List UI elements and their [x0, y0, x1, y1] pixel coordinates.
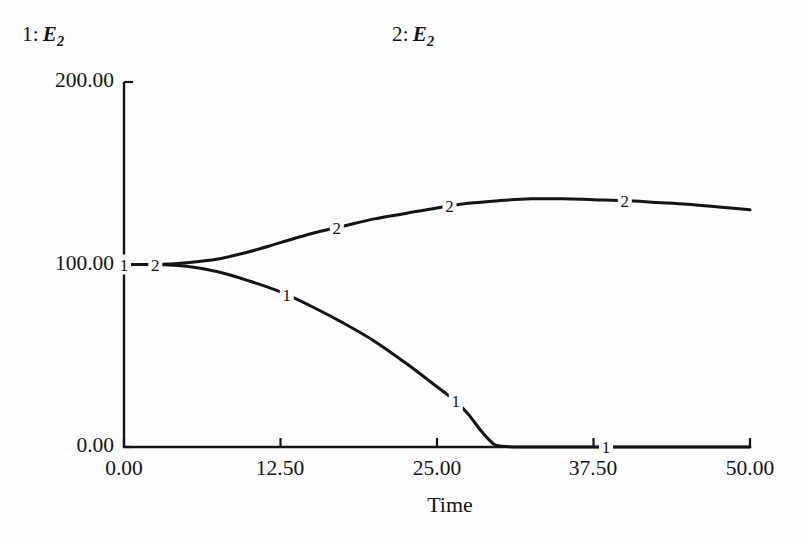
series-marker-1: 1 [283, 286, 292, 305]
series-marker-1: 1 [452, 392, 461, 411]
series-marker-2: 2 [445, 197, 454, 216]
series-marker-1: 1 [602, 438, 611, 457]
series-marker-2: 2 [621, 192, 630, 211]
data-series [124, 199, 750, 447]
series-marker-2: 2 [151, 256, 160, 275]
series-line-1 [124, 264, 750, 447]
chart-figure: 1:E2 2:E2 200.00 100.00 0.00 0.00 12.50 … [0, 0, 808, 544]
axis-ticks [124, 82, 750, 447]
series-point-markers: 11112222 [117, 191, 632, 457]
series-marker-2: 2 [333, 219, 342, 238]
axis-lines [124, 82, 750, 447]
plot-area: 11112222 [0, 0, 808, 544]
series-marker-1: 1 [120, 256, 129, 275]
series-line-2 [124, 199, 750, 265]
